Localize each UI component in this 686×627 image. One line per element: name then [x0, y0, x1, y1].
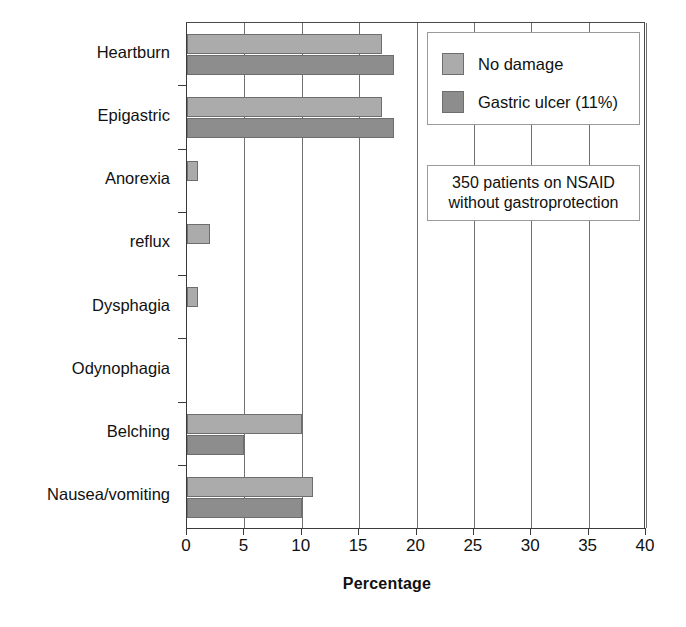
x-axis-tick: [645, 528, 646, 535]
legend-label: No damage: [478, 55, 563, 74]
y-tick-label: reflux: [0, 232, 170, 251]
x-tick-label: 25: [453, 536, 493, 556]
bar: [187, 498, 302, 518]
y-tick-label: Odynophagia: [0, 359, 170, 378]
y-axis-tick: [178, 402, 186, 403]
legend-swatch-icon: [442, 91, 464, 113]
x-tick-label: 20: [396, 536, 436, 556]
bar-chart-figure: HeartburnEpigastricAnorexiarefluxDysphag…: [0, 0, 686, 627]
x-axis-tick: [588, 528, 589, 535]
bar: [187, 97, 382, 117]
x-tick-label: 5: [223, 536, 263, 556]
x-axis-tick: [358, 528, 359, 535]
legend-item[interactable]: No damage: [442, 49, 563, 79]
y-tick-label: Epigastric: [0, 106, 170, 125]
annotation-box: 350 patients on NSAID without gastroprot…: [427, 165, 640, 221]
y-tick-label: Nausea/vomiting: [0, 485, 170, 504]
bar: [187, 224, 210, 244]
bar-group: [187, 403, 644, 466]
y-tick-label: Heartburn: [0, 43, 170, 62]
x-axis-tick: [301, 528, 302, 535]
x-tick-label: 30: [510, 536, 550, 556]
y-axis-labels: HeartburnEpigastricAnorexiarefluxDysphag…: [0, 22, 178, 528]
annotation-line-1: 350 patients on NSAID: [452, 173, 615, 193]
x-tick-label: 40: [625, 536, 665, 556]
bar-group: [187, 466, 644, 529]
bar: [187, 118, 394, 138]
bar: [187, 55, 394, 75]
x-tick-label: 0: [166, 536, 206, 556]
bar: [187, 477, 313, 497]
legend-box: No damageGastric ulcer (11%): [427, 32, 640, 125]
bar: [187, 435, 244, 455]
x-axis-tick: [473, 528, 474, 535]
y-axis-tick: [178, 149, 186, 150]
y-tick-label: Belching: [0, 422, 170, 441]
annotation-line-2: without gastroprotection: [449, 193, 619, 213]
y-axis-tick: [178, 212, 186, 213]
y-axis-tick: [178, 465, 186, 466]
bar: [187, 414, 302, 434]
bar: [187, 287, 198, 307]
x-axis-tick: [243, 528, 244, 535]
y-axis-tick: [178, 275, 186, 276]
x-axis-tick: [186, 528, 187, 535]
x-axis-title-text: Percentage: [343, 575, 431, 592]
x-tick-label: 10: [281, 536, 321, 556]
y-axis-tick: [178, 338, 186, 339]
legend-item[interactable]: Gastric ulcer (11%): [442, 87, 618, 117]
y-tick-label: Dysphagia: [0, 296, 170, 315]
bar-group: [187, 339, 644, 402]
legend-swatch-icon: [442, 53, 464, 75]
bar: [187, 34, 382, 54]
x-axis-tick: [530, 528, 531, 535]
bar-group: [187, 276, 644, 339]
y-axis-tick: [178, 85, 186, 86]
x-tick-label: 15: [338, 536, 378, 556]
legend-label: Gastric ulcer (11%): [478, 93, 618, 112]
bar: [187, 161, 198, 181]
x-axis-ticks: 0510152025303540: [0, 528, 686, 568]
x-axis-title: Percentage: [0, 575, 686, 593]
bar-group: [187, 213, 644, 276]
y-tick-label: Anorexia: [0, 169, 170, 188]
gridline-40: [646, 23, 647, 528]
x-axis-tick: [416, 528, 417, 535]
x-tick-label: 35: [568, 536, 608, 556]
